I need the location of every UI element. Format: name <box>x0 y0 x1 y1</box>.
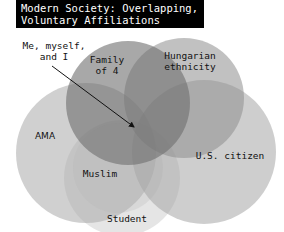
label-student: Student <box>102 213 152 224</box>
label-muslim: Muslim <box>75 168 125 179</box>
callout-line-1: Me, myself, <box>23 40 86 51</box>
family-line-2: of 4 <box>96 65 119 76</box>
family-line-1: Family <box>90 54 124 65</box>
label-hungarian: Hungarian ethnicity <box>155 50 225 72</box>
callout-line-2: and I <box>40 51 69 62</box>
hungarian-line-1: Hungarian <box>164 50 215 61</box>
label-us-citizen: U.S. citizen <box>190 150 270 161</box>
hungarian-line-2: ethnicity <box>164 61 215 72</box>
label-ama: AMA <box>30 131 60 142</box>
label-family: Family of 4 <box>82 54 132 76</box>
venn-diagram <box>0 0 284 232</box>
